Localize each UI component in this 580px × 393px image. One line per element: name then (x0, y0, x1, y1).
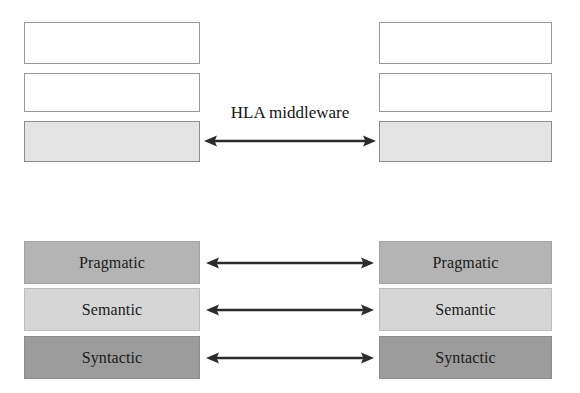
double-arrow-icon-pragmatic (206, 254, 374, 272)
left-level-semantic-label: Semantic (82, 302, 142, 318)
double-arrow-icon-semantic (206, 301, 374, 319)
hla-middleware-caption: HLA middleware (205, 104, 375, 121)
diagram-canvas: HLA middleware Pragmatic Semantic Syntac… (0, 0, 580, 393)
right-stack-box-1 (379, 22, 552, 64)
left-stack-box-2 (24, 73, 200, 112)
right-level-pragmatic-label: Pragmatic (433, 255, 499, 271)
right-level-semantic: Semantic (379, 288, 552, 331)
right-level-syntactic: Syntactic (379, 336, 552, 379)
right-stack-box-2 (379, 73, 552, 112)
right-level-syntactic-label: Syntactic (435, 350, 495, 366)
left-level-pragmatic: Pragmatic (24, 241, 200, 284)
left-stack-box-1 (24, 22, 200, 64)
right-level-pragmatic: Pragmatic (379, 241, 552, 284)
left-level-pragmatic-label: Pragmatic (79, 255, 145, 271)
left-level-syntactic-label: Syntactic (82, 350, 142, 366)
double-arrow-icon (204, 132, 376, 150)
right-level-semantic-label: Semantic (435, 302, 495, 318)
left-stack-box-3-shaded (24, 121, 200, 162)
double-arrow-icon-syntactic (206, 349, 374, 367)
right-stack-box-3-shaded (379, 121, 552, 162)
left-level-semantic: Semantic (24, 288, 200, 331)
left-level-syntactic: Syntactic (24, 336, 200, 379)
